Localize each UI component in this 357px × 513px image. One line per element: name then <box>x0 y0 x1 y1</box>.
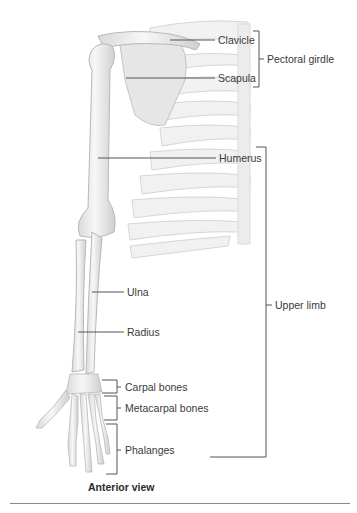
label-phalanges: Phalanges <box>125 444 175 456</box>
label-clavicle: Clavicle <box>218 34 255 46</box>
radius-shape <box>72 240 86 372</box>
skeleton-diagram: Clavicle Scapula Pectoral girdle Humerus… <box>0 0 357 513</box>
ulna-shape <box>86 232 102 374</box>
humerus-shape <box>78 44 115 238</box>
hand-bones <box>36 374 110 472</box>
label-scapula: Scapula <box>218 72 256 84</box>
label-ulna: Ulna <box>127 286 149 298</box>
label-radius: Radius <box>127 326 160 338</box>
label-humerus: Humerus <box>219 152 262 164</box>
divider <box>10 503 350 504</box>
upper-limb-illustration <box>0 0 357 513</box>
label-metacarpal-bones: Metacarpal bones <box>125 402 208 414</box>
label-carpal-bones: Carpal bones <box>125 381 187 393</box>
label-pectoral-girdle: Pectoral girdle <box>267 53 334 65</box>
figure-caption: Anterior view <box>88 481 155 493</box>
label-upper-limb: Upper limb <box>275 299 326 311</box>
